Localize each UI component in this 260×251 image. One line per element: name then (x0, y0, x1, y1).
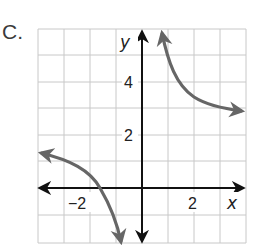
y-tick-2: 2 (124, 127, 133, 144)
graph: 4 2 −2 2 y x (0, 0, 260, 251)
y-axis-label: y (119, 32, 131, 52)
x-tick-2: 2 (188, 195, 197, 212)
x-tick-neg2: −2 (68, 195, 86, 212)
upper-branch-curve (162, 33, 242, 111)
y-tick-4: 4 (124, 74, 133, 91)
x-axis-label: x (226, 193, 238, 213)
